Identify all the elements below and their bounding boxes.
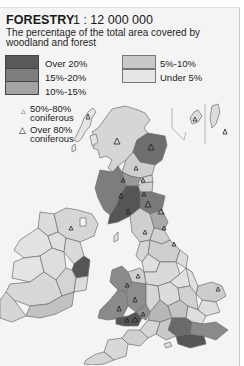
region-norfolk	[196, 282, 226, 302]
triangle-icon	[223, 129, 227, 134]
lough-neagh	[80, 218, 86, 226]
region-sussex	[176, 334, 206, 348]
region-dyfed	[98, 290, 128, 320]
